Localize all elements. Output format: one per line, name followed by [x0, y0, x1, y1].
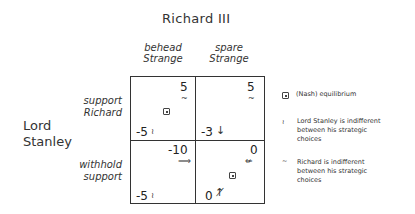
row-header-line1: support	[52, 95, 122, 107]
stanley-payoff: 0	[205, 189, 213, 203]
stanley-indifferent-icon: ≀	[151, 191, 154, 200]
arrow-right-icon: ⟹	[178, 156, 191, 166]
column-header-behead: behead Strange	[133, 42, 193, 64]
row-header-line1: withhold	[52, 159, 122, 171]
row-header-line2: Richard	[52, 107, 122, 119]
arrow-down-icon: ↓	[216, 124, 225, 137]
legend-line: between his strategic	[297, 126, 381, 135]
arrow-up-crossed-icon: ↑̸	[215, 186, 224, 199]
stanley-payoff: -3	[201, 125, 213, 139]
legend-stanley-indifferent-icon: ≀	[282, 118, 284, 127]
row-player-line1: Lord	[23, 118, 72, 134]
row-header-line2: support	[52, 171, 122, 183]
legend-equilibrium-icon	[282, 92, 289, 99]
column-header-line2: Strange	[133, 53, 193, 64]
richard-payoff: 0	[250, 143, 258, 157]
equilibrium-icon	[163, 108, 170, 115]
column-header-line2: Strange	[199, 53, 259, 64]
stanley-indifferent-icon: ≀	[151, 127, 154, 136]
legend-equilibrium-text: (Nash) equilibrium	[296, 90, 356, 99]
richard-indifferent-icon: ~	[181, 94, 188, 103]
legend-stanley-text: Lord Stanley is indifferent between his …	[297, 117, 381, 144]
matrix-horizontal-divider	[130, 140, 264, 141]
column-header-spare: spare Strange	[199, 42, 259, 64]
legend-line: Lord Stanley is indifferent	[297, 117, 381, 126]
column-header-line1: spare	[199, 42, 259, 53]
stanley-payoff: -5	[136, 125, 148, 139]
legend-richard-text: Richard is indifferent between his strat…	[297, 158, 367, 185]
row-header-withhold: withhold support	[52, 159, 122, 183]
row-player-line2: Stanley	[23, 134, 72, 150]
richard-payoff: -10	[168, 143, 188, 157]
column-header-line1: behead	[133, 42, 193, 53]
row-header-support: support Richard	[52, 95, 122, 119]
legend-line: choices	[297, 135, 381, 144]
richard-indifferent-icon: ~	[248, 94, 255, 103]
stanley-payoff: -5	[136, 189, 148, 203]
richard-payoff: 5	[247, 80, 255, 94]
richard-payoff: 5	[180, 80, 188, 94]
legend-line: Richard is indifferent	[297, 158, 367, 167]
legend-richard-indifferent-icon: ~	[282, 157, 287, 166]
legend-line: choices	[297, 176, 367, 185]
arrow-left-crossed-icon: ⇍	[245, 156, 253, 166]
equilibrium-icon	[229, 172, 236, 179]
column-player-title: Richard III	[162, 11, 230, 26]
row-player-label: Lord Stanley	[23, 118, 72, 150]
legend-line: between his strategic	[297, 167, 367, 176]
